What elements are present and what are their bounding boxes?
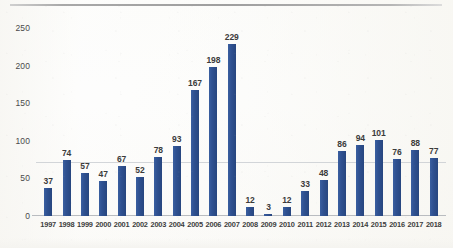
bar[interactable]: 93 xyxy=(173,146,181,216)
bar-value-label: 77 xyxy=(429,146,438,156)
bar-slot: 67 xyxy=(112,28,130,216)
x-axis-tick-label: 2002 xyxy=(131,220,149,229)
bar-value-label: 37 xyxy=(44,176,53,186)
bar-value-label: 78 xyxy=(154,145,163,155)
x-axis-tick-label: 2015 xyxy=(369,220,387,229)
bar-slot: 78 xyxy=(149,28,167,216)
bar-slot: 12 xyxy=(278,28,296,216)
bar[interactable]: 229 xyxy=(228,44,236,216)
bar[interactable]: 77 xyxy=(430,158,438,216)
chart-screenshot: 250 200 150 100 50 0 3774574767527893167… xyxy=(0,0,453,248)
bar-value-label: 67 xyxy=(117,154,126,164)
bar[interactable]: 101 xyxy=(375,140,383,216)
bar[interactable]: 67 xyxy=(118,166,126,216)
bar-value-label: 86 xyxy=(337,139,346,149)
bar-value-label: 76 xyxy=(392,147,401,157)
bar[interactable]: 33 xyxy=(301,191,309,216)
x-axis-tick-label: 2016 xyxy=(388,220,406,229)
bar-slot: 86 xyxy=(333,28,351,216)
bar[interactable]: 88 xyxy=(411,150,419,216)
bar-value-label: 101 xyxy=(372,128,386,138)
bar-slot: 101 xyxy=(369,28,387,216)
bar-value-label: 94 xyxy=(356,133,365,143)
y-tick-label-150: 150 xyxy=(16,98,30,108)
bar-slot: 88 xyxy=(406,28,424,216)
bar-series: 3774574767527893167198229123123348869410… xyxy=(36,28,446,216)
bar-slot: 167 xyxy=(186,28,204,216)
bar-value-label: 33 xyxy=(301,179,310,189)
bar-slot: 37 xyxy=(39,28,57,216)
bar-slot: 93 xyxy=(168,28,186,216)
x-axis-tick-label: 2012 xyxy=(314,220,332,229)
x-axis-tick-label: 2003 xyxy=(149,220,167,229)
bar-value-label: 167 xyxy=(188,78,202,88)
bar-value-label: 3 xyxy=(266,202,271,212)
x-axis-tick-label: 2018 xyxy=(425,220,443,229)
bar-slot: 94 xyxy=(351,28,369,216)
bar-value-label: 12 xyxy=(282,195,291,205)
bar-slot: 198 xyxy=(204,28,222,216)
x-axis-tick-label: 2010 xyxy=(278,220,296,229)
bar-value-label: 52 xyxy=(135,165,144,175)
bar[interactable]: 47 xyxy=(99,181,107,216)
x-axis-tick-label: 2007 xyxy=(223,220,241,229)
x-axis-tick-label: 2004 xyxy=(168,220,186,229)
bar-slot: 76 xyxy=(388,28,406,216)
x-axis-tick-label: 2006 xyxy=(204,220,222,229)
x-axis-tick-label: 1999 xyxy=(76,220,94,229)
bar-slot: 33 xyxy=(296,28,314,216)
bar-slot: 74 xyxy=(57,28,75,216)
bar-value-label: 48 xyxy=(319,168,328,178)
bar[interactable]: 86 xyxy=(338,151,346,216)
bar[interactable]: 76 xyxy=(393,159,401,216)
y-tick-label-0: 0 xyxy=(25,211,30,221)
bar-slot: 57 xyxy=(76,28,94,216)
bar[interactable]: 12 xyxy=(246,207,254,216)
y-tick-label-100: 100 xyxy=(16,136,30,146)
x-axis-tick-label: 2000 xyxy=(94,220,112,229)
bar[interactable]: 48 xyxy=(320,180,328,216)
bar-value-label: 47 xyxy=(99,169,108,179)
x-axis-tick-label: 2008 xyxy=(241,220,259,229)
bar[interactable]: 94 xyxy=(356,145,364,216)
bar[interactable]: 52 xyxy=(136,177,144,216)
y-tick-label-50: 50 xyxy=(20,173,30,183)
bar-slot: 47 xyxy=(94,28,112,216)
bar-slot: 229 xyxy=(223,28,241,216)
bar-value-label: 74 xyxy=(62,148,71,158)
bar-value-label: 229 xyxy=(225,32,239,42)
bar-slot: 48 xyxy=(314,28,332,216)
bar[interactable]: 3 xyxy=(264,214,272,216)
bar-slot: 77 xyxy=(425,28,443,216)
x-axis-tick-label: 1998 xyxy=(57,220,75,229)
y-tick-label-200: 200 xyxy=(16,61,30,71)
plot-area: 250 200 150 100 50 0 3774574767527893167… xyxy=(36,28,446,216)
bar-slot: 12 xyxy=(241,28,259,216)
bar-value-label: 12 xyxy=(245,195,254,205)
page-bottom-shade xyxy=(0,238,453,248)
x-axis-tick-label: 2005 xyxy=(186,220,204,229)
bar-value-label: 198 xyxy=(206,55,220,65)
bar[interactable]: 57 xyxy=(81,173,89,216)
x-axis-tick-label: 2013 xyxy=(333,220,351,229)
x-axis-tick-label: 2001 xyxy=(112,220,130,229)
bar-slot: 3 xyxy=(259,28,277,216)
x-axis-tick-label: 2017 xyxy=(406,220,424,229)
gridline-0: 0 xyxy=(36,216,446,217)
bar[interactable]: 198 xyxy=(209,67,217,216)
bar-value-label: 93 xyxy=(172,134,181,144)
y-tick-label-250: 250 xyxy=(16,23,30,33)
bar[interactable]: 37 xyxy=(44,188,52,216)
bar[interactable]: 12 xyxy=(283,207,291,216)
page-top-rule xyxy=(10,4,442,6)
x-axis-tick-label: 2014 xyxy=(351,220,369,229)
x-axis-tick-label: 2011 xyxy=(296,220,314,229)
x-axis-tick-label: 1997 xyxy=(39,220,57,229)
bar[interactable]: 78 xyxy=(154,157,162,216)
bar[interactable]: 74 xyxy=(63,160,71,216)
bar[interactable]: 167 xyxy=(191,90,199,216)
bar-value-label: 88 xyxy=(411,138,420,148)
x-axis-tick-label: 2009 xyxy=(259,220,277,229)
bar-slot: 52 xyxy=(131,28,149,216)
bar-value-label: 57 xyxy=(80,161,89,171)
